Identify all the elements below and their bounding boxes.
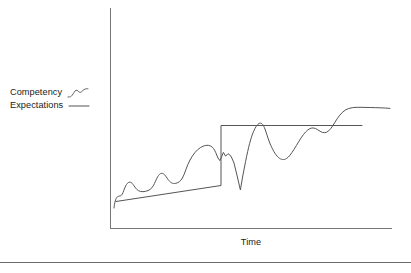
expectations-line	[116, 126, 362, 202]
competency-curve	[114, 107, 390, 208]
plot-area	[0, 0, 411, 273]
figure-container: Competency Expectations Time	[0, 0, 411, 273]
x-axis-title: Time	[110, 237, 392, 247]
bottom-divider	[0, 262, 411, 263]
